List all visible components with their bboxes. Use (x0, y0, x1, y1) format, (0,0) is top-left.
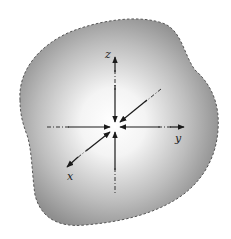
body-outline (20, 19, 218, 225)
x-axis-label: x (67, 170, 74, 183)
diagram-canvas: z y x (0, 0, 231, 239)
z-axis-label: z (104, 48, 111, 61)
center-point (114, 126, 116, 128)
y-axis-label: y (174, 132, 182, 145)
